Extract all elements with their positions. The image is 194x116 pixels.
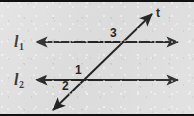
line-label-l1-subscript: 1 <box>19 41 24 52</box>
line-label-l1: l1 <box>14 34 24 52</box>
top-border-edge <box>0 0 194 2</box>
geometry-figure: l1 l2 t 1 2 3 <box>0 0 194 116</box>
angle-label-1: 1 <box>75 64 82 76</box>
bottom-border-edge <box>0 114 194 116</box>
line-label-l1-letter: l <box>14 33 18 50</box>
diagram-canvas <box>0 0 194 116</box>
transversal-label-t: t <box>156 7 160 19</box>
angle-label-3: 3 <box>110 27 117 39</box>
line-label-l2-subscript: 2 <box>19 79 24 90</box>
line-label-l2-letter: l <box>14 71 18 88</box>
angle-label-2: 2 <box>62 80 69 92</box>
transversal-line <box>53 14 152 110</box>
line-label-l2: l2 <box>14 72 24 90</box>
